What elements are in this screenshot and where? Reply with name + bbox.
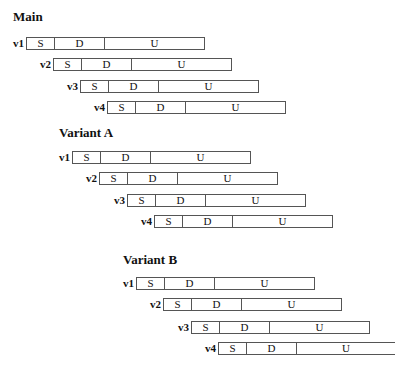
segment-u: U xyxy=(159,81,258,92)
version-label: v4 xyxy=(194,342,216,355)
version-label: v3 xyxy=(103,194,125,207)
version-label: v1 xyxy=(48,151,70,164)
version-label: v3 xyxy=(167,321,189,334)
segment-s: S xyxy=(108,102,136,113)
segment-u: U xyxy=(215,278,314,289)
segment-u: U xyxy=(242,299,341,310)
version-label: v2 xyxy=(29,58,51,71)
segment-d: D xyxy=(136,102,186,113)
group-title: Variant A xyxy=(59,126,113,140)
version-label: v4 xyxy=(83,101,105,114)
segment-d: D xyxy=(109,81,159,92)
segment-d: D xyxy=(220,322,270,333)
segment-s: S xyxy=(219,343,247,354)
segment-u: U xyxy=(151,152,250,163)
version-bar: SDU xyxy=(136,277,315,290)
version-bar: SDU xyxy=(191,321,370,334)
segment-s: S xyxy=(73,152,101,163)
segment-d: D xyxy=(101,152,151,163)
version-bar: SDU xyxy=(154,215,333,228)
segment-s: S xyxy=(100,173,128,184)
segment-u: U xyxy=(297,343,395,354)
segment-u: U xyxy=(270,322,369,333)
version-label: v2 xyxy=(139,298,161,311)
segment-d: D xyxy=(192,299,242,310)
segment-u: U xyxy=(105,38,204,49)
segment-s: S xyxy=(128,195,156,206)
segment-u: U xyxy=(178,173,277,184)
segment-d: D xyxy=(165,278,215,289)
version-bar: SDU xyxy=(218,342,395,355)
segment-d: D xyxy=(156,195,206,206)
version-bar: SDU xyxy=(99,172,278,185)
version-bar: SDU xyxy=(53,58,232,71)
segment-d: D xyxy=(247,343,297,354)
segment-d: D xyxy=(128,173,178,184)
segment-d: D xyxy=(183,216,233,227)
segment-s: S xyxy=(155,216,183,227)
version-label: v3 xyxy=(56,80,78,93)
version-label: v1 xyxy=(2,37,24,50)
segment-u: U xyxy=(186,102,285,113)
segment-s: S xyxy=(81,81,109,92)
segment-u: U xyxy=(132,59,231,70)
segment-s: S xyxy=(54,59,82,70)
version-label: v4 xyxy=(130,215,152,228)
version-bar: SDU xyxy=(72,151,251,164)
version-bar: SDU xyxy=(26,37,205,50)
segment-s: S xyxy=(27,38,55,49)
version-label: v1 xyxy=(112,277,134,290)
segment-u: U xyxy=(206,195,305,206)
group-title: Main xyxy=(13,10,43,24)
segment-u: U xyxy=(233,216,332,227)
version-bar: SDU xyxy=(163,298,342,311)
group-title: Variant B xyxy=(123,253,177,267)
segment-s: S xyxy=(164,299,192,310)
version-bar: SDU xyxy=(80,80,259,93)
version-bar: SDU xyxy=(107,101,286,114)
segment-d: D xyxy=(55,38,105,49)
segment-s: S xyxy=(192,322,220,333)
segment-d: D xyxy=(82,59,132,70)
segment-s: S xyxy=(137,278,165,289)
version-bar: SDU xyxy=(127,194,306,207)
version-label: v2 xyxy=(75,172,97,185)
